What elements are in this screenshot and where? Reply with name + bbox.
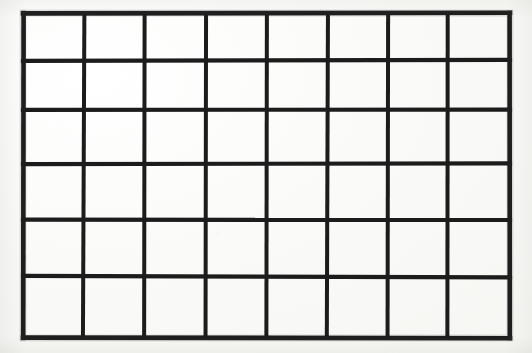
grid-cell[interactable] bbox=[208, 63, 264, 107]
grid-cell[interactable] bbox=[450, 222, 507, 274]
grid-cell[interactable] bbox=[86, 279, 142, 335]
grid-cell[interactable] bbox=[147, 166, 203, 217]
grid-cell[interactable] bbox=[450, 15, 507, 58]
grid-border-bottom bbox=[23, 338, 510, 339]
grid-cell[interactable] bbox=[390, 279, 445, 335]
grid-cell[interactable] bbox=[450, 112, 507, 161]
grid-border-top bbox=[23, 13, 510, 14]
grid-cell[interactable] bbox=[208, 279, 264, 335]
grid-cell[interactable] bbox=[450, 279, 507, 335]
grid-horizontal-line bbox=[23, 276, 510, 277]
grid-cell[interactable] bbox=[147, 222, 203, 274]
grid-cell[interactable] bbox=[25, 112, 81, 161]
grid-cell[interactable] bbox=[86, 112, 142, 161]
grid-cell[interactable] bbox=[25, 279, 81, 335]
grid-cell[interactable] bbox=[147, 15, 203, 58]
grid-cell[interactable] bbox=[330, 279, 385, 335]
grid-cell[interactable] bbox=[330, 15, 385, 58]
grid-horizontal-line bbox=[23, 163, 510, 164]
grid-cell[interactable] bbox=[390, 112, 445, 161]
grid-cell[interactable] bbox=[390, 15, 445, 58]
grid-cell[interactable] bbox=[390, 63, 445, 107]
grid-cell[interactable] bbox=[269, 279, 325, 335]
grid-cell[interactable] bbox=[208, 166, 264, 217]
grid-cell[interactable] bbox=[25, 63, 81, 107]
grid-cell[interactable] bbox=[269, 112, 325, 161]
grid-cell[interactable] bbox=[269, 63, 325, 107]
grid-cell[interactable] bbox=[147, 279, 203, 335]
grid-cell[interactable] bbox=[269, 166, 325, 217]
grid-cell[interactable] bbox=[269, 222, 325, 274]
grid-cell[interactable] bbox=[86, 63, 142, 107]
grid-cell[interactable] bbox=[330, 63, 385, 107]
grid-cell[interactable] bbox=[450, 166, 507, 217]
grid-horizontal-line bbox=[23, 60, 510, 61]
grid-cell[interactable] bbox=[269, 15, 325, 58]
grid-cell[interactable] bbox=[330, 112, 385, 161]
grid-cell[interactable] bbox=[25, 15, 81, 58]
grid-cell[interactable] bbox=[330, 166, 385, 217]
grid-cell[interactable] bbox=[25, 222, 81, 274]
grid-cell[interactable] bbox=[450, 63, 507, 107]
grid-cell[interactable] bbox=[86, 166, 142, 217]
grid-cell[interactable] bbox=[86, 222, 142, 274]
grid-cell[interactable] bbox=[330, 222, 385, 274]
grid-figure[interactable] bbox=[0, 0, 532, 353]
grid-cell[interactable] bbox=[147, 112, 203, 161]
grid-cell[interactable] bbox=[208, 222, 264, 274]
grid-cell[interactable] bbox=[86, 15, 142, 58]
grid-cell[interactable] bbox=[390, 166, 445, 217]
grid-cell[interactable] bbox=[208, 112, 264, 161]
grid-cell[interactable] bbox=[390, 222, 445, 274]
grid-cell[interactable] bbox=[208, 15, 264, 58]
grid-cell[interactable] bbox=[147, 63, 203, 107]
page-canvas bbox=[0, 0, 532, 353]
grid-cell[interactable] bbox=[25, 166, 81, 217]
